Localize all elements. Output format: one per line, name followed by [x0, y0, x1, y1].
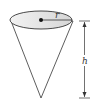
height-arrow-down-icon [83, 92, 87, 97]
cone-body [11, 21, 73, 98]
radius-label: r [55, 10, 60, 20]
center-dot [39, 18, 43, 22]
height-label: h [82, 56, 88, 66]
cone-diagram: r h [0, 0, 95, 106]
height-arrow-up-icon [83, 22, 87, 27]
